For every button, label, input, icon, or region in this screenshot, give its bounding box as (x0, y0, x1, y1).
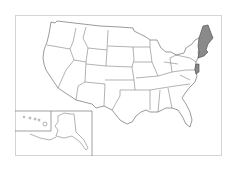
hawaii-inset-border (15, 111, 51, 131)
us-map (0, 0, 235, 169)
aleutians (30, 134, 56, 140)
inset-border (15, 111, 92, 156)
new-jersey-highlight (195, 64, 199, 74)
hawaii (23, 116, 47, 126)
alaska (55, 113, 88, 150)
new-england-highlight (198, 25, 213, 58)
